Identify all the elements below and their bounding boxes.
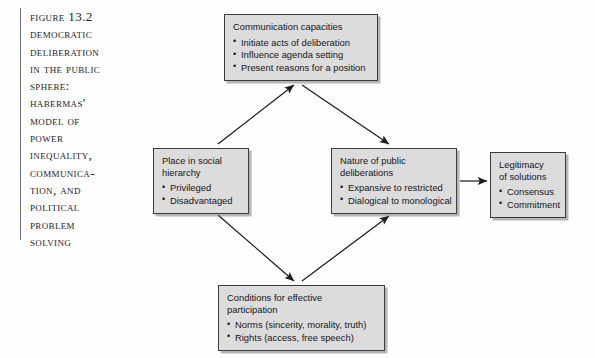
figure-caption-block: Figure 13.2 Democratic Deliberation in t… (20, 8, 132, 240)
bullet-item: Present reasons for a position (233, 62, 370, 74)
bullet-item: Rights (access, free speech) (227, 332, 377, 344)
bullet-item: Commitment (499, 199, 558, 211)
bullet-item: Disadvantaged (162, 195, 241, 207)
node-conditions-for-effective-participation: Conditions for effective participation N… (218, 285, 385, 351)
node-communication-capacities: Communication capacities Initiate acts o… (224, 14, 378, 81)
node-bullet-list: Consensus Commitment (499, 186, 558, 210)
arrow-place-to-conditions (218, 215, 294, 281)
bullet-item: Dialogical to monological (340, 195, 449, 207)
node-title: Communication capacities (233, 21, 370, 33)
node-legitimacy-of-solutions: Legitimacy of solutions Consensus Commit… (490, 152, 566, 218)
bullet-item: Consensus (499, 186, 558, 198)
node-bullet-list: Norms (sincerity, morality, truth) Right… (227, 319, 377, 343)
bullet-item: Privileged (162, 182, 241, 194)
node-place-in-social-hierarchy: Place in social hierarchy Privileged Dis… (153, 148, 249, 214)
node-title: Place in social hierarchy (162, 155, 241, 178)
bullet-item: Norms (sincerity, morality, truth) (227, 319, 377, 331)
node-bullet-list: Initiate acts of deliberation Influence … (233, 37, 370, 74)
bullet-item: Expansive to restricted (340, 182, 449, 194)
bullet-item: Influence agenda setting (233, 49, 370, 61)
bullet-item: Initiate acts of deliberation (233, 37, 370, 49)
arrow-conditions-to-nature (302, 216, 389, 281)
node-title: Legitimacy of solutions (499, 159, 558, 182)
node-title: Nature of public deliberations (340, 155, 449, 178)
arrow-communication-to-nature (302, 85, 389, 144)
node-bullet-list: Privileged Disadvantaged (162, 182, 241, 206)
arrow-place-to-communication (218, 85, 294, 144)
node-nature-of-public-deliberations: Nature of public deliberations Expansive… (331, 148, 457, 214)
figure-caption-text: Figure 13.2 Democratic Deliberation in t… (30, 8, 134, 250)
node-bullet-list: Expansive to restricted Dialogical to mo… (340, 182, 449, 206)
node-title: Conditions for effective participation (227, 292, 377, 315)
